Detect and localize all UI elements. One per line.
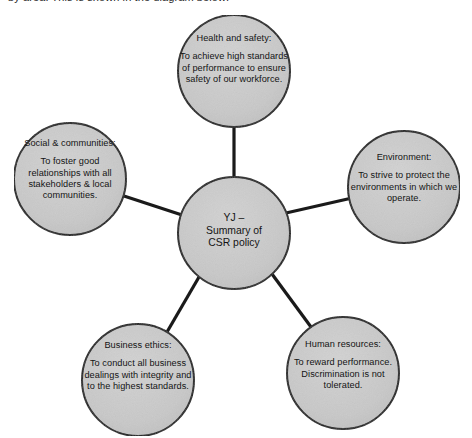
connector-center-to-business-ethics	[167, 277, 199, 332]
csr-policy-diagram	[0, 0, 472, 438]
connector-center-to-human-resources	[272, 274, 311, 327]
connector-center-to-environment	[286, 198, 352, 213]
node-circle-social-and-communities	[14, 123, 126, 235]
diagram-page: by area. This is shown in the diagram be…	[0, 0, 472, 438]
node-circle-business-ethics	[82, 324, 194, 436]
node-circle-csr-policy-summary	[178, 177, 290, 289]
node-circle-group	[14, 15, 460, 436]
node-circle-health-and-safety	[178, 15, 290, 127]
node-circle-human-resources	[287, 317, 399, 429]
connector-center-to-social-and-communities	[124, 196, 182, 215]
node-circle-environment	[348, 131, 460, 243]
